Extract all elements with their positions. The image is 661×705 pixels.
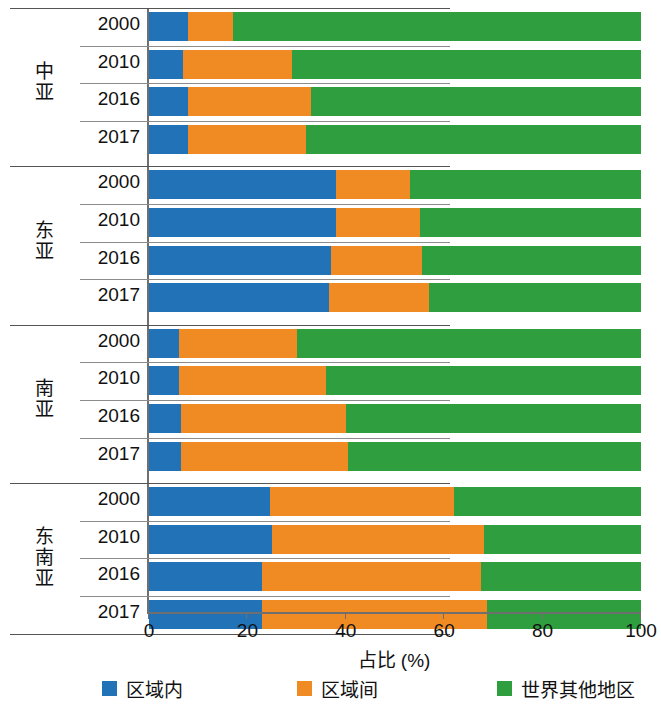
- stacked-bar: [149, 404, 641, 433]
- bar-segment-rest-of-world: [311, 87, 641, 116]
- stacked-bar: [149, 12, 641, 41]
- year-axis-label: 2016: [78, 563, 140, 585]
- year-separator: [80, 279, 450, 280]
- bar-segment-rest-of-world: [422, 246, 641, 275]
- bar-segment-interregional: [331, 246, 422, 275]
- legend-label: 世界其他地区: [521, 675, 635, 702]
- year-axis-label: 2016: [78, 405, 140, 427]
- chart-legend: 区域内区域间世界其他地区: [0, 676, 655, 704]
- year-axis-label: 2000: [78, 171, 140, 193]
- year-separator: [80, 558, 450, 559]
- x-tick-label: 60: [414, 620, 474, 642]
- year-axis-label: 2000: [78, 13, 140, 35]
- bar-segment-intraregional: [149, 208, 336, 237]
- group-label-char: 亚: [18, 399, 70, 420]
- group-label-char: 亚: [18, 241, 70, 262]
- bar-segment-rest-of-world: [429, 283, 641, 312]
- legend-item-1[interactable]: 区域内: [102, 676, 183, 700]
- bar-segment-rest-of-world: [297, 329, 641, 358]
- group-label-3: 南亚: [18, 378, 70, 420]
- group-label-char: 亚: [18, 82, 70, 103]
- group-label-char: 东: [18, 526, 70, 547]
- bar-segment-rest-of-world: [484, 525, 641, 554]
- stacked-bar: [149, 525, 641, 554]
- bar-segment-rest-of-world: [346, 404, 641, 433]
- year-axis-label: 2000: [78, 488, 140, 510]
- x-tick: [148, 612, 149, 619]
- year-axis-label: 2000: [78, 330, 140, 352]
- bar-segment-interregional: [181, 442, 348, 471]
- bar-segment-intraregional: [149, 12, 188, 41]
- bar-segment-intraregional: [149, 366, 179, 395]
- year-axis-label: 2017: [78, 284, 140, 306]
- year-axis-label: 2010: [78, 526, 140, 548]
- group-label-char: 东: [18, 220, 70, 241]
- year-axis-label: 2010: [78, 367, 140, 389]
- x-tick-label: 80: [513, 620, 573, 642]
- stacked-bar: [149, 125, 641, 154]
- group-label-2: 东亚: [18, 220, 70, 262]
- x-tick-label: 100: [611, 620, 661, 642]
- year-separator: [80, 46, 450, 47]
- stacked-bar: [149, 87, 641, 116]
- x-axis-line: [147, 612, 641, 614]
- stacked-bar: [149, 50, 641, 79]
- year-separator: [80, 204, 450, 205]
- group-separator: [10, 325, 450, 326]
- bar-segment-rest-of-world: [348, 442, 641, 471]
- group-separator: [10, 483, 450, 484]
- legend-item-3[interactable]: 世界其他地区: [497, 676, 635, 700]
- bar-segment-intraregional: [149, 404, 181, 433]
- bar-segment-interregional: [262, 562, 481, 591]
- plot-area: 中亚东亚南亚东南亚 200020102016201720002010201620…: [0, 0, 655, 612]
- year-axis-label: 2010: [78, 209, 140, 231]
- legend-swatch-icon: [102, 681, 117, 696]
- stacked-bar: [149, 208, 641, 237]
- year-separator: [80, 121, 450, 122]
- bar-segment-rest-of-world: [420, 208, 641, 237]
- year-separator: [80, 438, 450, 439]
- stacked-bar: [149, 366, 641, 395]
- group-label-char: 中: [18, 61, 70, 82]
- stacked-bar: [149, 246, 641, 275]
- bar-segment-rest-of-world: [454, 487, 641, 516]
- year-separator: [80, 83, 450, 84]
- stacked-bar: [149, 442, 641, 471]
- group-label-char: 亚: [18, 568, 70, 589]
- bar-segment-interregional: [336, 208, 420, 237]
- bar-segment-interregional: [188, 12, 232, 41]
- bar-segment-rest-of-world: [306, 125, 641, 154]
- bar-segment-intraregional: [149, 442, 181, 471]
- group-separator: [10, 8, 450, 9]
- year-separator: [80, 400, 450, 401]
- year-axis-label: 2016: [78, 247, 140, 269]
- year-separator: [80, 521, 450, 522]
- year-axis-label: 2016: [78, 88, 140, 110]
- group-label-char: 南: [18, 547, 70, 568]
- x-tick-label: 0: [119, 620, 179, 642]
- x-tick: [542, 612, 543, 619]
- bar-segment-interregional: [270, 487, 455, 516]
- group-label-4: 东南亚: [18, 526, 70, 589]
- x-axis-title: 占比 (%): [147, 645, 641, 672]
- bar-segment-interregional: [179, 329, 297, 358]
- stacked-bar: [149, 170, 641, 199]
- bar-segment-intraregional: [149, 246, 331, 275]
- bar-segment-intraregional: [149, 125, 188, 154]
- stacked-bar: [149, 283, 641, 312]
- x-tick: [246, 612, 247, 619]
- x-tick: [640, 612, 641, 619]
- bar-segment-interregional: [336, 170, 410, 199]
- bar-segment-intraregional: [149, 562, 262, 591]
- bar-segment-rest-of-world: [326, 366, 641, 395]
- bar-segment-rest-of-world: [481, 562, 641, 591]
- year-separator: [80, 242, 450, 243]
- year-axis-label: 2017: [78, 126, 140, 148]
- bar-segment-intraregional: [149, 487, 270, 516]
- bar-segment-interregional: [188, 87, 311, 116]
- bar-segment-intraregional: [149, 283, 329, 312]
- bar-segment-interregional: [181, 404, 346, 433]
- legend-swatch-icon: [297, 681, 312, 696]
- legend-item-2[interactable]: 区域间: [297, 676, 378, 700]
- x-tick: [443, 612, 444, 619]
